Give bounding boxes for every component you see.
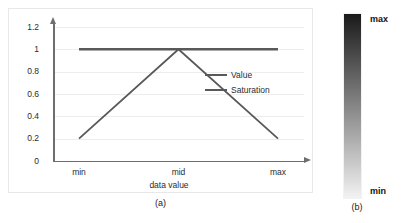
legend-swatch-saturation-icon: [205, 89, 227, 91]
x-axis-arrow-icon: [304, 157, 311, 163]
ytick-label-0.8: 0.8: [9, 67, 39, 76]
legend-item-saturation: Saturation: [205, 82, 315, 97]
y-axis-arrow-icon: [50, 17, 56, 24]
ytick-label-0.6: 0.6: [9, 90, 39, 99]
ytick-label-1.2: 1.2: [9, 23, 39, 32]
ytick-label-1: 1: [9, 45, 39, 54]
chart-frame: 1.2 1 0.8 0.6 0.4 0.2 0 min mid max data…: [8, 8, 313, 193]
panel-a-line-chart: 1.2 1 0.8 0.6 0.4 0.2 0 min mid max data…: [0, 0, 322, 223]
ytick-label-0: 0: [9, 157, 39, 166]
legend-label-value: Value: [231, 70, 252, 80]
legend-label-saturation: Saturation: [231, 85, 270, 95]
ytick-label-0.2: 0.2: [9, 134, 39, 143]
chart-legend: Value Saturation: [205, 67, 315, 97]
panel-b-colorbar: max min (b): [322, 0, 409, 223]
caption-panel-b: (b): [322, 202, 392, 213]
x-axis-line: [53, 161, 305, 163]
colorbar-max-label: max: [370, 14, 388, 25]
xtick-label-max: max: [255, 167, 301, 177]
legend-item-value: Value: [205, 67, 315, 82]
ytick-label-0.4: 0.4: [9, 112, 39, 121]
colorbar-min-label: min: [370, 186, 386, 197]
xtick-label-min: min: [56, 167, 102, 177]
x-axis-title: data value: [53, 180, 285, 190]
caption-panel-a: (a): [8, 198, 313, 209]
legend-swatch-value-icon: [205, 74, 227, 76]
xtick-label-mid: mid: [156, 167, 202, 177]
y-axis-line: [53, 23, 55, 162]
colorbar-gradient: [343, 13, 362, 199]
